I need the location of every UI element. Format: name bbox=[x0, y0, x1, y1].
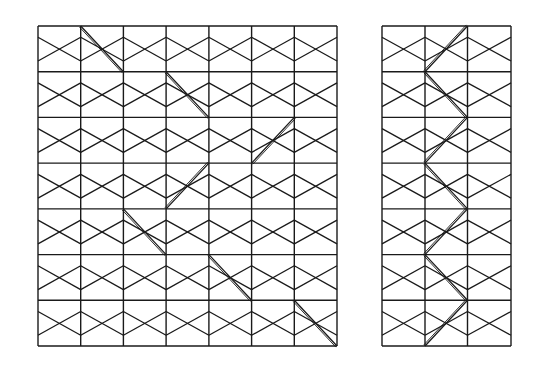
path-segment-shadow bbox=[165, 162, 208, 208]
lattice-diagram bbox=[0, 0, 539, 372]
path-segment bbox=[425, 255, 468, 301]
path-segment bbox=[425, 209, 468, 255]
path-segment bbox=[123, 209, 166, 255]
path-segment-shadow bbox=[208, 256, 251, 302]
path-segment bbox=[425, 117, 468, 163]
path-segment-shadow bbox=[424, 73, 467, 119]
path-segment-shadow bbox=[293, 301, 336, 347]
path-segment bbox=[425, 72, 468, 118]
path-segment-shadow bbox=[424, 116, 467, 162]
path-segment bbox=[209, 255, 252, 301]
path-segment bbox=[252, 117, 295, 163]
path-segment-shadow bbox=[424, 208, 467, 254]
path-segment-shadow bbox=[165, 73, 208, 119]
path-segment-shadow bbox=[253, 118, 296, 164]
left-lattice-panel bbox=[38, 26, 337, 347]
path-segment-shadow bbox=[424, 164, 467, 210]
path-segment-shadow bbox=[424, 25, 467, 71]
path-segment-shadow bbox=[424, 256, 467, 302]
path-segment-shadow bbox=[424, 299, 467, 345]
path-segment bbox=[294, 300, 337, 346]
path-segment-shadow bbox=[122, 210, 165, 256]
path-segment bbox=[425, 300, 468, 346]
path-segment bbox=[166, 72, 209, 118]
path-segment bbox=[81, 26, 124, 72]
right-lattice-panel bbox=[382, 25, 511, 346]
path-segment bbox=[425, 163, 468, 209]
path-segment bbox=[425, 26, 468, 72]
path-segment-shadow bbox=[80, 27, 123, 73]
path-segment bbox=[166, 163, 209, 209]
